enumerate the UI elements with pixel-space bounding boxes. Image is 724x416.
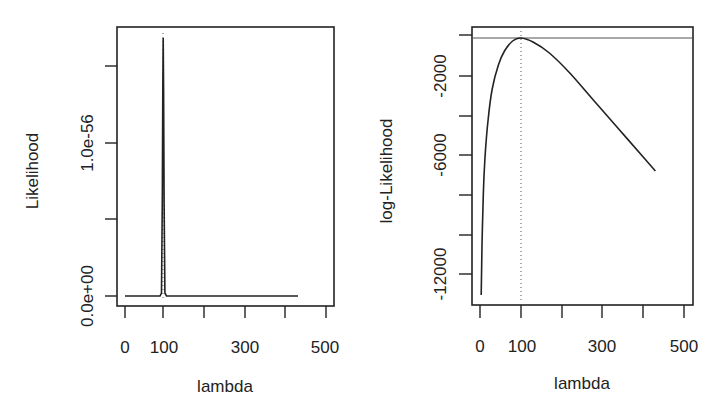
left-x-axis (125, 306, 326, 318)
left-likelihood-curve (125, 38, 298, 296)
right-y-tick-label: -6000 (431, 133, 450, 176)
left-x-tick-label: 300 (231, 338, 259, 357)
left-x-tick-label: 100 (150, 338, 178, 357)
right-x-axis-title: lambda (554, 374, 610, 393)
left-x-axis-title: lambda (197, 377, 253, 396)
right-x-tick-label: 100 (508, 337, 536, 356)
left-panel: 0.0e+00 1.0e-56 0 100 300 500 lambda Lik… (23, 27, 339, 396)
figure: 0.0e+00 1.0e-56 0 100 300 500 lambda Lik… (0, 0, 724, 416)
right-y-axis (459, 35, 472, 274)
left-y-tick-label: 0.0e+00 (78, 265, 97, 327)
right-x-axis (480, 305, 684, 318)
right-y-tick-label: -12000 (431, 248, 450, 301)
left-x-tick-label: 0 (120, 338, 129, 357)
right-x-tick-label: 500 (670, 337, 698, 356)
left-y-axis-title: Likelihood (23, 133, 42, 210)
left-x-tick-label: 500 (311, 338, 339, 357)
right-loglik-curve (481, 38, 655, 295)
right-x-tick-label: 0 (475, 337, 484, 356)
left-y-tick-label: 1.0e-56 (78, 114, 97, 172)
right-panel: -2000 -6000 -12000 0 100 300 500 lambda … (377, 27, 698, 393)
right-y-tick-label: -2000 (431, 54, 450, 97)
right-plot-box (472, 27, 693, 305)
left-y-axis (105, 66, 117, 296)
right-x-tick-label: 300 (588, 337, 616, 356)
left-plot-box (117, 27, 334, 306)
right-y-axis-title: log-Likelihood (377, 119, 396, 224)
